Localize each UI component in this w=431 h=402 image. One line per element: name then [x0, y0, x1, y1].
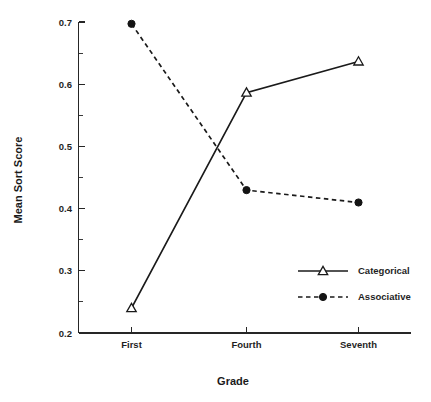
x-tick-label-fourth: Fourth: [231, 339, 261, 350]
series-associative-line: [132, 24, 359, 203]
series-associative: [128, 20, 362, 206]
legend-entry-categorical: Categorical: [298, 265, 410, 276]
line-chart-canvas: 0.7 0.6 0.5 0.4 0.3 0.2 First Fourth Sev…: [0, 0, 431, 402]
y-tick-label-1: 0.6: [59, 79, 72, 90]
legend-label-categorical: Categorical: [358, 265, 410, 276]
x-axis-ticks: [132, 327, 359, 333]
legend-marker-filled-circle-icon: [319, 293, 326, 300]
y-tick-label-5: 0.2: [59, 328, 72, 339]
y-axis-title: Mean Sort Score: [12, 137, 24, 224]
chart-legend: Categorical Associative: [298, 265, 411, 302]
series-associative-point-seventh: [355, 199, 362, 206]
series-associative-point-fourth: [243, 187, 250, 194]
x-tick-label-first: First: [121, 339, 142, 350]
x-axis-title: Grade: [217, 375, 249, 387]
y-tick-label-2: 0.5: [59, 141, 73, 152]
x-tick-label-seventh: Seventh: [340, 339, 377, 350]
series-associative-point-first: [128, 20, 135, 27]
y-tick-label-4: 0.3: [59, 265, 72, 276]
legend-entry-associative: Associative: [298, 291, 411, 302]
series-categorical-point-seventh: [354, 57, 363, 65]
series-categorical-point-first: [127, 303, 136, 311]
chart-figure: 0.7 0.6 0.5 0.4 0.3 0.2 First Fourth Sev…: [0, 0, 431, 402]
y-tick-label-0: 0.7: [59, 17, 72, 28]
legend-label-associative: Associative: [358, 291, 411, 302]
y-tick-label-3: 0.4: [59, 203, 73, 214]
